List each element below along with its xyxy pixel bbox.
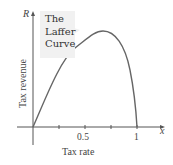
y-axis-arrow-icon bbox=[31, 11, 35, 16]
y-axis-symbol: R bbox=[23, 8, 29, 19]
x-tick-label: 1 bbox=[134, 132, 139, 142]
curve-callout: The Laffer Curve bbox=[40, 11, 75, 58]
callout-line: Curve bbox=[45, 38, 75, 51]
callout-line: The bbox=[45, 13, 75, 26]
y-axis-label: Tax revenue bbox=[17, 54, 28, 114]
callout-line: Laffer bbox=[45, 26, 75, 39]
x-axis-label: Tax rate bbox=[62, 146, 94, 157]
x-tick-label: 0.5 bbox=[77, 132, 89, 142]
x-axis-symbol: x bbox=[160, 125, 164, 136]
